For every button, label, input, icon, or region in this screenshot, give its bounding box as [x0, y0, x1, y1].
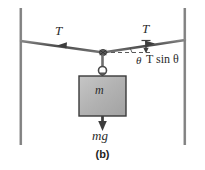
label-weight: mg: [92, 129, 108, 142]
label-tension-vertical-component: T sin θ: [146, 53, 179, 65]
label-tension-right: T: [142, 22, 149, 35]
figure-caption: (b): [0, 148, 205, 160]
label-tension-left: T: [55, 24, 62, 37]
label-angle-theta: θ: [136, 55, 141, 66]
physics-free-body-diagram: T T θ T sin θ m mg (b): [0, 0, 205, 170]
vertical-post-left: [19, 8, 22, 145]
cable-right: [103, 40, 185, 53]
vertical-post-right: [183, 8, 186, 145]
label-mass: m: [95, 84, 104, 96]
